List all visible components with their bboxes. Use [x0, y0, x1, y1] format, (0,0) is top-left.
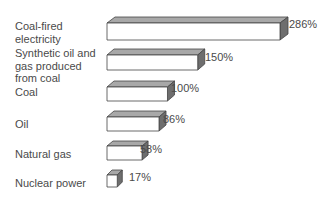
category-label-5: Nuclear power	[15, 177, 86, 190]
value-label-2: 100%	[171, 82, 199, 94]
value-label-3: 86%	[163, 113, 185, 125]
category-label-3: Oil	[15, 118, 28, 131]
bar-0	[107, 17, 288, 40]
bar-2	[107, 81, 174, 101]
category-label-0: Coal-firedelectricity	[15, 20, 63, 45]
value-label-4: 58%	[140, 143, 162, 155]
bar-5	[107, 170, 122, 187]
value-label-5: 17%	[129, 171, 151, 183]
category-label-2: Coal	[15, 86, 38, 99]
value-label-1: 150%	[205, 51, 233, 63]
bar-3	[107, 111, 166, 131]
category-label-4: Natural gas	[15, 148, 71, 161]
bar-1	[107, 49, 205, 70]
category-label-1: Synthetic oil andgas producedfrom coal	[15, 47, 96, 85]
value-label-0: 286%	[289, 18, 317, 30]
